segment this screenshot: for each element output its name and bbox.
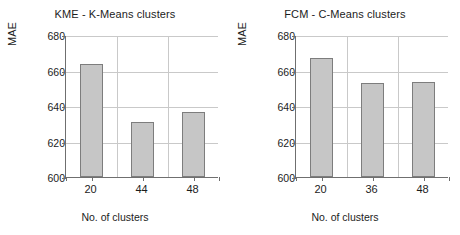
- figure-two-bar-charts: KME - K-Means clusters MAE 6006206406606…: [0, 0, 460, 235]
- y-tick-labels-kme: 600620640660680: [36, 36, 65, 178]
- y-tick-labels-fcm: 600620640660680: [266, 36, 295, 178]
- x-tick-mark: [219, 177, 220, 181]
- x-tick-label: 20: [84, 183, 96, 195]
- x-tick-label: 48: [416, 183, 428, 195]
- y-axis-label-fcm: MAE: [236, 22, 248, 46]
- x-tick-labels-kme: 204448: [65, 36, 218, 178]
- chart-title-fcm: FCM - C-Means clusters: [230, 8, 460, 20]
- chart-panel-kme: KME - K-Means clusters MAE 6006206406606…: [0, 0, 230, 235]
- x-tick-label: 36: [365, 183, 377, 195]
- x-axis-label-fcm: No. of clusters: [230, 211, 460, 223]
- x-axis-label-kme: No. of clusters: [0, 211, 230, 223]
- x-tick-mark: [449, 177, 450, 181]
- plot-wrap-kme: 600620640660680 204448: [36, 36, 222, 181]
- plot-wrap-fcm: 600620640660680 203648: [266, 36, 452, 181]
- x-tick-label: 44: [135, 183, 147, 195]
- x-tick-labels-fcm: 203648: [295, 36, 448, 178]
- chart-panel-fcm: FCM - C-Means clusters MAE 6006206406606…: [230, 0, 460, 235]
- x-tick-label: 48: [186, 183, 198, 195]
- y-axis-label-kme: MAE: [6, 22, 18, 46]
- x-tick-label: 20: [314, 183, 326, 195]
- chart-title-kme: KME - K-Means clusters: [0, 8, 230, 20]
